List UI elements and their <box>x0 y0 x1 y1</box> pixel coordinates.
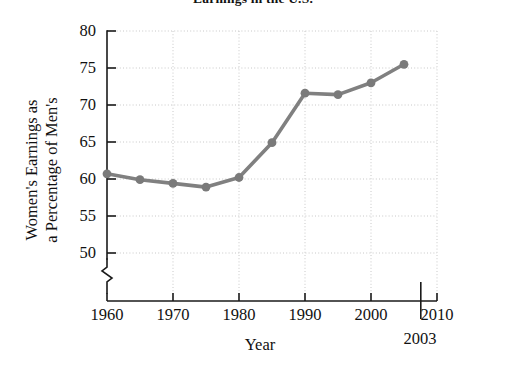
chart-figure: Earnings in the U.S. Women's Earnings as… <box>0 0 506 372</box>
y-axis-label: Women's Earnings as a Percentage of Men'… <box>22 45 62 295</box>
data-point-1970 <box>169 179 178 188</box>
x-tick-label-1990: 1990 <box>275 307 335 323</box>
y-tick-label-70: 70 <box>62 97 96 113</box>
x-tick-label-1960: 1960 <box>77 307 137 323</box>
x-tick-label-1970: 1970 <box>143 307 203 323</box>
y-axis-ticks <box>107 31 116 253</box>
data-point-1980 <box>235 173 244 182</box>
y-tick-label-55: 55 <box>62 208 96 224</box>
x-tick-label-1980: 1980 <box>209 307 269 323</box>
x-tick-label-2000: 2000 <box>341 307 401 323</box>
data-point-2000 <box>367 78 376 87</box>
vertical-gridlines <box>173 31 437 301</box>
data-point-1965 <box>136 175 145 184</box>
y-tick-label-50: 50 <box>62 245 96 261</box>
y-tick-label-80: 80 <box>62 23 96 39</box>
data-point-2005 <box>400 60 409 69</box>
plot-svg <box>107 31 437 301</box>
data-point-1985 <box>268 138 277 147</box>
y-tick-label-65: 65 <box>62 134 96 150</box>
plot-area <box>107 31 437 301</box>
x-axis-label: Year <box>200 335 320 355</box>
data-point-1995 <box>334 90 343 99</box>
x-tick-label-2010: 2010 <box>407 307 467 323</box>
data-point-1990 <box>301 89 310 98</box>
data-point-markers <box>103 60 409 192</box>
year-marker-2003-label: 2003 <box>390 331 450 347</box>
data-point-1960 <box>103 169 112 178</box>
data-line-womens-earnings <box>107 64 404 187</box>
x-axis-ticks <box>107 293 437 301</box>
y-tick-label-60: 60 <box>62 171 96 187</box>
chart-title: Earnings in the U.S. <box>0 0 506 7</box>
y-tick-label-75: 75 <box>62 60 96 76</box>
data-point-1975 <box>202 183 211 192</box>
